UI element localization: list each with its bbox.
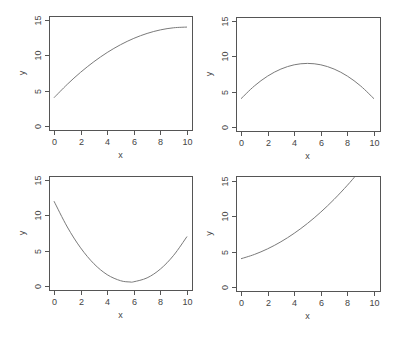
x-tick-label: 8 [345,138,350,148]
data-line [241,176,355,259]
data-line [241,63,374,98]
x-tick-label: 6 [132,297,137,307]
y-axis-label: y [204,71,214,76]
x-tick-label: 0 [52,297,57,307]
x-tick-label: 6 [319,298,324,308]
y-tick-label: 10 [33,50,43,60]
x-tick-label: 8 [158,297,163,307]
y-tick-label: 0 [220,125,230,130]
y-tick-label: 10 [220,211,230,221]
x-tick-label: 2 [79,137,84,147]
x-axis-label: x [305,311,310,321]
y-tick-label: 15 [220,176,230,186]
x-tick-label: 0 [52,137,57,147]
y-tick-label: 15 [33,15,43,25]
plot-frame [237,177,381,292]
y-axis-label: y [204,231,214,236]
x-tick-label: 4 [105,137,110,147]
x-tick-label: 2 [79,297,84,307]
x-axis-label: x [305,151,310,161]
x-tick-label: 4 [292,138,297,148]
x-tick-label: 0 [239,298,244,308]
x-tick-label: 0 [239,138,244,148]
x-tick-label: 8 [345,298,350,308]
x-tick-label: 6 [132,137,137,147]
y-tick-label: 15 [220,16,230,26]
x-tick-label: 2 [266,298,271,308]
y-tick-label: 15 [33,175,43,185]
panel-bottom-right: 0246810051015xy [204,176,381,321]
x-axis-label: x [118,150,123,160]
data-line [54,27,187,98]
x-tick-label: 4 [292,298,297,308]
panel-bottom-left: 0246810051015xy [17,175,193,320]
plot-grid: 0246810051015xy0246810051015xy0246810051… [0,0,400,338]
y-tick-label: 5 [220,250,230,255]
y-tick-label: 0 [33,124,43,129]
x-tick-label: 10 [369,138,379,148]
x-tick-label: 2 [266,138,271,148]
x-tick-label: 10 [182,137,192,147]
y-tick-label: 0 [33,284,43,289]
data-line [54,201,187,282]
x-tick-label: 8 [158,137,163,147]
plot-frame [50,17,193,131]
x-tick-label: 6 [319,138,324,148]
x-tick-label: 4 [105,297,110,307]
x-axis-label: x [118,310,123,320]
y-axis-label: y [17,70,27,75]
y-tick-label: 10 [220,51,230,61]
y-tick-label: 5 [220,90,230,95]
x-tick-label: 10 [182,297,192,307]
y-tick-label: 0 [220,285,230,290]
plot-frame [237,18,381,132]
y-tick-label: 10 [33,210,43,220]
x-tick-label: 10 [369,298,379,308]
y-tick-label: 5 [33,89,43,94]
y-axis-label: y [17,230,27,235]
panel-top-left: 0246810051015xy [17,15,193,160]
y-tick-label: 5 [33,249,43,254]
panel-top-right: 0246810051015xy [204,16,381,161]
